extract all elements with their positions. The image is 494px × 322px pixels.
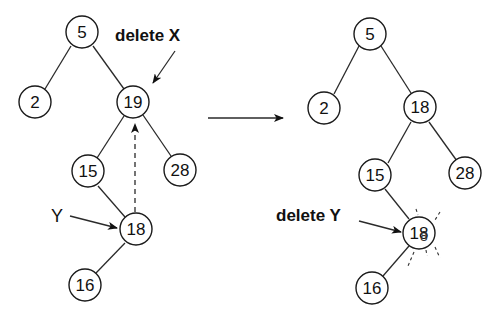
bst-deletion-diagram: 5 2 19 15 28 18 16 delete X Y xyxy=(0,0,494,322)
tree-after: 5 2 18 15 28 18 8 xyxy=(276,18,481,304)
node-18: 18 xyxy=(404,91,436,123)
svg-text:15: 15 xyxy=(366,166,385,185)
node-5: 5 xyxy=(354,18,386,50)
label-delete-y: delete Y xyxy=(276,206,342,225)
svg-text:18: 18 xyxy=(411,98,430,117)
svg-text:5: 5 xyxy=(365,25,374,44)
node-28: 28 xyxy=(449,157,481,189)
node-18: 18 xyxy=(120,213,152,245)
edge-5-2 xyxy=(45,46,71,89)
pointer-arrow-delete-y xyxy=(359,221,401,232)
node-16: 16 xyxy=(69,269,101,301)
svg-text:16: 16 xyxy=(76,276,95,295)
node-15: 15 xyxy=(359,159,391,191)
node-15: 15 xyxy=(72,155,104,187)
svg-text:18: 18 xyxy=(127,220,146,239)
edge-18-16 xyxy=(96,243,125,273)
edge-5-18 xyxy=(381,46,411,93)
svg-text:19: 19 xyxy=(124,93,143,112)
edge-15-18 xyxy=(98,186,125,217)
edge-18del-16 xyxy=(383,246,409,276)
svg-text:15: 15 xyxy=(79,162,98,181)
svg-text:16: 16 xyxy=(363,279,382,298)
label-y: Y xyxy=(51,206,63,226)
node-2: 2 xyxy=(19,86,51,118)
edge-18-15 xyxy=(388,122,411,163)
overstrike-digit: 8 xyxy=(420,228,428,244)
node-2: 2 xyxy=(308,92,340,124)
svg-text:2: 2 xyxy=(319,99,328,118)
tree-before: 5 2 19 15 28 18 16 delete X Y xyxy=(19,16,196,301)
node-5: 5 xyxy=(66,16,98,48)
edge-15-18del xyxy=(385,189,409,219)
label-delete-x: delete X xyxy=(115,26,181,45)
pointer-arrow-x xyxy=(153,51,175,83)
node-19: 19 xyxy=(117,86,149,118)
svg-text:28: 28 xyxy=(456,164,475,183)
pointer-arrow-y xyxy=(70,216,117,228)
edge-5-19 xyxy=(93,46,124,89)
svg-text:5: 5 xyxy=(77,23,86,42)
edge-19-28 xyxy=(143,115,171,156)
node-28: 28 xyxy=(164,154,196,186)
edge-18-28 xyxy=(429,122,457,161)
edge-5-2 xyxy=(334,46,359,94)
svg-text:2: 2 xyxy=(30,93,39,112)
edge-19-15 xyxy=(97,116,124,158)
node-16: 16 xyxy=(356,272,388,304)
svg-text:28: 28 xyxy=(171,161,190,180)
